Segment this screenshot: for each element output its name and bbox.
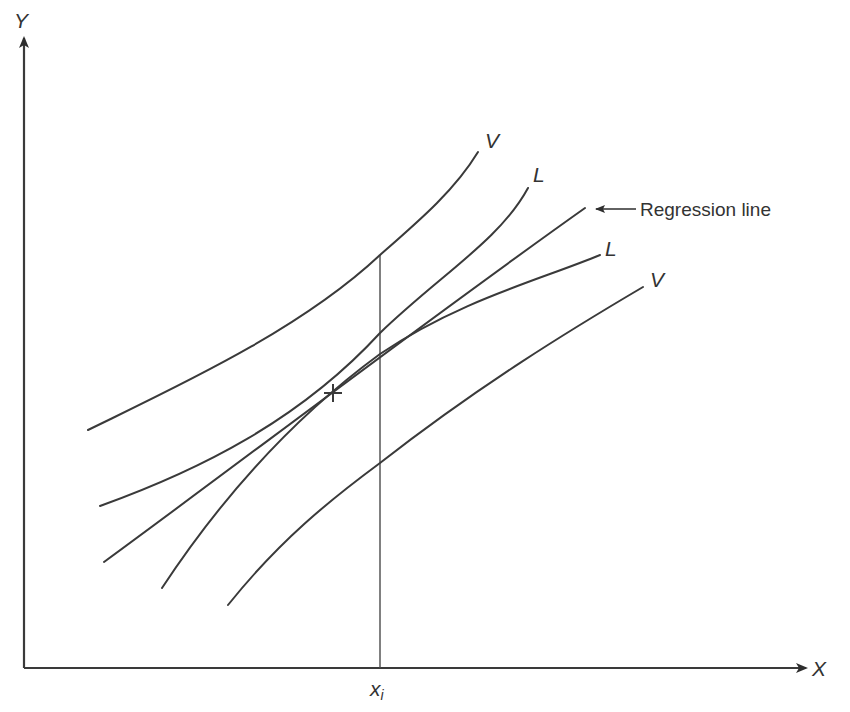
regression-bands-diagram: Y X xi V L Regression line L V: [0, 0, 850, 712]
lower-v-label: V: [650, 268, 666, 291]
y-axis-label: Y: [14, 9, 30, 32]
lower-l-label: L: [605, 237, 617, 260]
regression-line: [104, 208, 585, 562]
regression-line-label: Regression line: [640, 199, 771, 220]
upper-v-curve: [88, 152, 478, 430]
xi-label: xi: [369, 677, 385, 703]
lower-v-curve: [228, 287, 643, 605]
axes: Y X: [14, 9, 827, 680]
upper-l-curve: [100, 188, 528, 506]
upper-l-label: L: [533, 163, 545, 186]
x-axis-label: X: [811, 657, 827, 680]
lower-l-curve: [162, 255, 600, 588]
upper-v-label: V: [485, 129, 501, 152]
